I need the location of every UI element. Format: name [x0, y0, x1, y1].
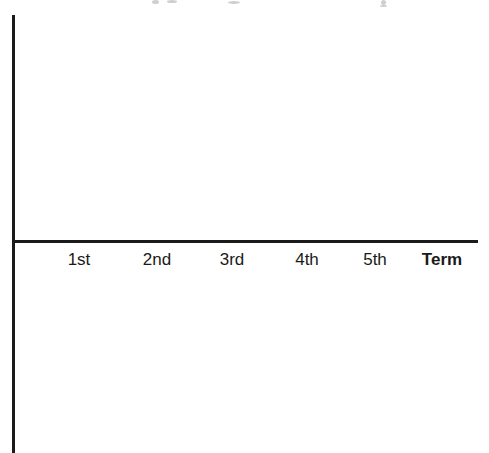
scan-artifact-mark: [380, 5, 387, 7]
horizontal-axis-line: [12, 240, 478, 243]
vertical-axis-line: [12, 15, 15, 453]
x-axis-tick-label: 3rd: [220, 250, 245, 270]
x-axis-tick-label: 1st: [68, 250, 91, 270]
scan-artifact-row: [0, 0, 489, 7]
x-axis-tick-label: 4th: [295, 250, 319, 270]
scan-artifact-mark: [152, 0, 159, 4]
scan-artifact-mark: [167, 0, 177, 3]
blank-axes-figure: 1st 2nd 3rd 4th 5th Term: [0, 0, 489, 453]
scan-artifact-mark: [228, 1, 240, 4]
x-axis-title: Term: [422, 250, 462, 270]
x-axis-tick-label: 2nd: [143, 250, 171, 270]
x-axis-tick-label: 5th: [363, 250, 387, 270]
